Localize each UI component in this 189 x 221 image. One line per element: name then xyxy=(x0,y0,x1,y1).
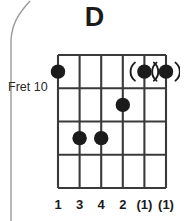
chord-title: D xyxy=(0,2,189,32)
chord-diagram-card: D Fret 10 1342(1)(1) xyxy=(0,0,189,221)
finger-numbers-row: 1342(1)(1) xyxy=(50,196,180,218)
finger-dots-group xyxy=(51,63,180,146)
finger-dot-circle xyxy=(72,131,86,145)
finger-dot-circle xyxy=(51,64,65,78)
finger-dot xyxy=(51,64,65,78)
fret-position-label: Fret 10 xyxy=(8,79,48,95)
finger-dot-circle xyxy=(116,98,130,112)
finger-dot-circle xyxy=(137,64,151,78)
finger-dot-circle xyxy=(159,64,173,78)
finger-dot xyxy=(72,131,86,145)
optional-paren-right xyxy=(176,63,180,81)
page-edge-curve-path xyxy=(11,1,30,221)
finger-dot-circle xyxy=(94,131,108,145)
fretboard-grid xyxy=(50,45,180,197)
finger-dot xyxy=(94,131,108,145)
finger-number: (1) xyxy=(153,196,179,214)
finger-dot xyxy=(116,98,130,112)
optional-paren-left xyxy=(131,63,135,81)
page-edge-curve-decoration xyxy=(0,0,40,221)
